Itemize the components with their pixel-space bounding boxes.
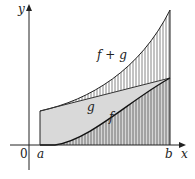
f-plus-g-label: f + g xyxy=(96,48,127,62)
b-label: b xyxy=(165,147,173,161)
g-label: g xyxy=(87,100,95,114)
a-label: a xyxy=(37,147,44,161)
y-axis-arrow-icon xyxy=(26,4,32,11)
origin-label: 0 xyxy=(20,147,28,161)
y-axis-label: y xyxy=(17,2,25,16)
sum-of-functions-diagram: y x 0 a b f + g g f xyxy=(0,0,195,179)
x-axis-label: x xyxy=(181,147,188,161)
